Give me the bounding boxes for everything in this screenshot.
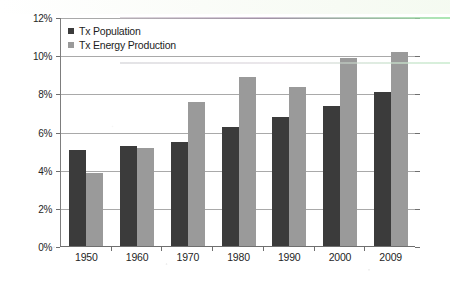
legend-swatch-icon-energy bbox=[68, 42, 74, 48]
bar-group-1960 bbox=[120, 18, 154, 247]
x-tick-mark bbox=[111, 247, 112, 251]
y-tick-mark-right bbox=[415, 209, 420, 210]
y-tick-mark-right bbox=[415, 247, 420, 248]
legend-label-tx-energy-production: Tx Energy Production bbox=[79, 39, 176, 51]
legend-item-tx-population: Tx Population bbox=[68, 24, 176, 37]
bar-group-1990 bbox=[272, 18, 306, 247]
bar-tx-population-2000 bbox=[323, 106, 340, 247]
y-tick-mark bbox=[56, 247, 60, 248]
bar-tx-energy-production-1970 bbox=[188, 102, 205, 247]
y-axis-tick-label: 6% bbox=[0, 127, 52, 138]
x-axis-label-1960: 1960 bbox=[126, 251, 149, 263]
bar-tx-energy-production-1980 bbox=[239, 77, 256, 247]
x-axis-label-1980: 1980 bbox=[227, 251, 250, 263]
bar-group-1980 bbox=[222, 18, 256, 247]
bar-tx-population-2009 bbox=[374, 92, 391, 247]
x-axis-label-1970: 1970 bbox=[177, 251, 200, 263]
y-tick-mark-right bbox=[415, 18, 420, 19]
x-tick-mark bbox=[161, 247, 162, 251]
plot-area bbox=[60, 18, 415, 247]
y-axis-tick-label: 2% bbox=[0, 203, 52, 214]
bar-tx-energy-production-2000 bbox=[340, 58, 357, 247]
x-axis-labels: 1950196019701980199020002009 bbox=[60, 251, 415, 271]
bar-group-2000 bbox=[323, 18, 357, 247]
bar-tx-population-1990 bbox=[272, 117, 289, 247]
y-axis-tick-label: 0% bbox=[0, 242, 52, 253]
bar-group-2009 bbox=[374, 18, 408, 247]
y-tick-mark-right bbox=[415, 133, 420, 134]
bar-group-1970 bbox=[171, 18, 205, 247]
legend-item-tx-energy-production: Tx Energy Production bbox=[68, 38, 176, 51]
bar-tx-population-1970 bbox=[171, 142, 188, 247]
legend-label-tx-population: Tx Population bbox=[79, 25, 141, 37]
bar-tx-population-1960 bbox=[120, 146, 137, 247]
x-axis-label-2000: 2000 bbox=[329, 251, 352, 263]
y-tick-mark-right bbox=[415, 171, 420, 172]
bar-tx-population-1980 bbox=[222, 127, 239, 247]
y-axis-tick-label: 10% bbox=[0, 51, 52, 62]
y-axis-tick-label: 12% bbox=[0, 13, 52, 24]
y-tick-mark-right bbox=[415, 94, 420, 95]
bar-tx-energy-production-2009 bbox=[391, 52, 408, 247]
x-tick-mark bbox=[212, 247, 213, 251]
x-axis-label-2009: 2009 bbox=[379, 251, 402, 263]
bar-tx-energy-production-1960 bbox=[137, 148, 154, 247]
legend: Tx Population Tx Energy Production bbox=[68, 24, 176, 52]
y-tick-mark-right bbox=[415, 56, 420, 57]
y-axis-tick-label: 4% bbox=[0, 165, 52, 176]
bar-tx-energy-production-1950 bbox=[86, 173, 103, 247]
x-tick-mark bbox=[364, 247, 365, 251]
bar-tx-population-1950 bbox=[69, 150, 86, 247]
bars-layer bbox=[60, 18, 415, 247]
x-axis-label-1990: 1990 bbox=[278, 251, 301, 263]
y-axis-labels: 0%2%4%6%8%10%12% bbox=[0, 18, 52, 247]
bar-group-1950 bbox=[69, 18, 103, 247]
y-axis-line bbox=[60, 18, 61, 247]
x-tick-mark bbox=[314, 247, 315, 251]
y-axis-tick-label: 8% bbox=[0, 89, 52, 100]
x-axis-label-1950: 1950 bbox=[75, 251, 98, 263]
legend-swatch-icon-population bbox=[68, 28, 74, 34]
bar-tx-energy-production-1990 bbox=[289, 87, 306, 247]
x-tick-mark bbox=[263, 247, 264, 251]
x-axis-line bbox=[60, 246, 415, 247]
bar-chart: 0%2%4%6%8%10%12% 19501960197019801990200… bbox=[0, 0, 450, 281]
